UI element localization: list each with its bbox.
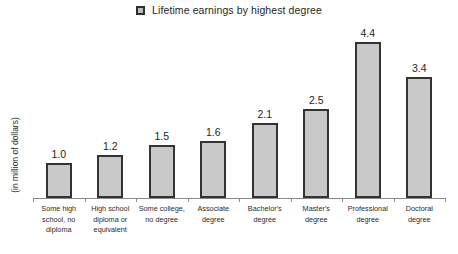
x-axis-category-label: Associatedegree xyxy=(187,204,239,225)
legend-square-icon xyxy=(136,6,145,15)
category-label-line: degree xyxy=(393,215,445,226)
legend-label: Lifetime earnings by highest degree xyxy=(152,4,322,16)
bar-group: 2.5 xyxy=(291,20,343,198)
x-axis-category-label: High schooldiploma orequivalent xyxy=(84,204,136,236)
category-label-line: school, no xyxy=(33,215,85,226)
bar[interactable] xyxy=(355,42,381,198)
x-axis-tick xyxy=(188,198,189,202)
category-label-line: diploma xyxy=(33,225,85,236)
chart-legend: Lifetime earnings by highest degree xyxy=(0,4,458,16)
x-axis-category-label: Some college,no degree xyxy=(136,204,188,225)
x-axis-category-label: Professionaldegree xyxy=(342,204,394,225)
x-axis-tick xyxy=(445,198,446,202)
bar[interactable] xyxy=(406,77,432,198)
category-label-line: diploma or xyxy=(84,215,136,226)
x-axis-tick xyxy=(342,198,343,202)
bar-value-label: 4.4 xyxy=(360,27,375,39)
x-axis-category-label: Some highschool, nodiploma xyxy=(33,204,85,236)
bar[interactable] xyxy=(97,155,123,198)
category-label-line: degree xyxy=(239,215,291,226)
bar-value-label: 3.4 xyxy=(412,62,427,74)
bar[interactable] xyxy=(200,141,226,198)
bar-group: 1.0 xyxy=(33,20,85,198)
x-axis-tick xyxy=(291,198,292,202)
category-label-line: Bachelor's xyxy=(239,204,291,215)
x-axis-category-label: Master'sdegree xyxy=(290,204,342,225)
category-label-line: High school xyxy=(84,204,136,215)
category-label-line: Associate xyxy=(187,204,239,215)
category-label-line: Doctoral xyxy=(393,204,445,215)
x-axis-tick xyxy=(136,198,137,202)
bar[interactable] xyxy=(46,163,72,199)
category-label-line: degree xyxy=(290,215,342,226)
bar-group: 1.2 xyxy=(85,20,137,198)
x-axis-categories: Some highschool, nodiplomaHigh schooldip… xyxy=(33,204,445,250)
bar-group: 1.6 xyxy=(188,20,240,198)
bar-group: 3.4 xyxy=(394,20,446,198)
bar[interactable] xyxy=(303,109,329,198)
bar[interactable] xyxy=(252,123,278,198)
y-axis-label: (in million of dollars) xyxy=(8,100,22,210)
bar-group: 2.1 xyxy=(239,20,291,198)
category-label-line: degree xyxy=(187,215,239,226)
category-label-line: degree xyxy=(342,215,394,226)
x-axis-tick xyxy=(85,198,86,202)
plot-area: 1.01.21.51.62.12.54.43.4 xyxy=(33,20,445,198)
x-axis-category-label: Doctoraldegree xyxy=(393,204,445,225)
category-label-line: Master's xyxy=(290,204,342,215)
category-label-line: Some high xyxy=(33,204,85,215)
bar[interactable] xyxy=(149,145,175,198)
bar-value-label: 1.2 xyxy=(103,140,118,152)
bar-value-label: 1.0 xyxy=(51,148,66,160)
category-label-line: no degree xyxy=(136,215,188,226)
x-axis-tick xyxy=(239,198,240,202)
category-label-line: Professional xyxy=(342,204,394,215)
bar-value-label: 1.5 xyxy=(154,130,169,142)
bar-value-label: 2.5 xyxy=(309,94,324,106)
x-axis-tick xyxy=(394,198,395,202)
bar-value-label: 1.6 xyxy=(206,126,221,138)
x-axis-category-label: Bachelor'sdegree xyxy=(239,204,291,225)
x-axis-tick xyxy=(33,198,34,202)
bar-group: 1.5 xyxy=(136,20,188,198)
y-axis-label-text: (in million of dollars) xyxy=(10,117,20,193)
category-label-line: equivalent xyxy=(84,225,136,236)
bar-group: 4.4 xyxy=(342,20,394,198)
bar-value-label: 2.1 xyxy=(257,108,272,120)
category-label-line: Some college, xyxy=(136,204,188,215)
